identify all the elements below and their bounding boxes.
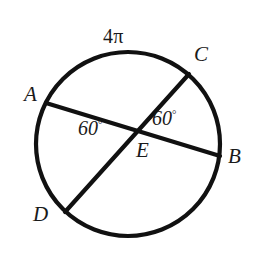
point-label-a: A	[24, 84, 37, 105]
angle-label-right: 60°	[152, 108, 176, 128]
circle-geometry-figure: 4π A C B D E 60° 60°	[0, 0, 258, 261]
chord-ab	[46, 103, 220, 156]
point-label-e: E	[136, 140, 149, 161]
point-label-c: C	[194, 44, 208, 65]
degree-symbol-left: °	[98, 118, 102, 130]
degree-symbol-right: °	[172, 108, 176, 120]
angle-left-value: 60	[78, 117, 98, 139]
point-label-b: B	[228, 146, 241, 167]
arc-measure-label: 4π	[103, 26, 124, 46]
angle-label-left: 60°	[78, 118, 102, 138]
point-label-d: D	[33, 204, 48, 225]
angle-right-value: 60	[152, 107, 172, 129]
